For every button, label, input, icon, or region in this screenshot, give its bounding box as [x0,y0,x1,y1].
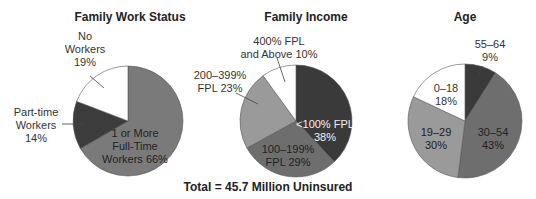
label-200-399-fpl: 200–399% FPL 23% [190,69,250,95]
label-line: Workers 66% [100,153,170,166]
label-line: Part-time [10,106,62,119]
label-line: 18% [426,95,466,108]
chart-title-work-status: Family Work Status [60,10,200,24]
label-line: 9% [470,51,510,64]
label-line: 43% [473,139,513,152]
label-line: Workers [60,43,110,56]
label-line: 55–64 [470,38,510,51]
label-age-30-54: 30–54 43% [473,126,513,152]
label-line: 19% [60,56,110,69]
label-line: No [60,30,110,43]
label-line: 19–29 [416,126,456,139]
total-uninsured-caption: Total = 45.7 Million Uninsured [0,180,536,194]
label-100-199-fpl: 100–199% FPL 29% [258,143,318,169]
label-line: 400% FPL [234,35,324,48]
label-line: and Above 10% [234,48,324,61]
label-full-time-workers: 1 or More Full-Time Workers 66% [100,127,170,166]
label-line: 1 or More [100,127,170,140]
label-line: 30% [416,139,456,152]
label-line: <100% FPL [294,118,356,131]
label-line: Full-Time [100,140,170,153]
label-no-workers: No Workers 19% [60,30,110,69]
label-400-fpl: 400% FPL and Above 10% [234,35,324,61]
label-line: FPL 23% [190,82,250,95]
chart-title-age: Age [440,10,490,24]
label-line: FPL 29% [258,156,318,169]
chart-title-family-income: Family Income [246,10,366,24]
label-below-100-fpl: <100% FPL 38% [294,118,356,144]
label-line: 30–54 [473,126,513,139]
label-age-55-64: 55–64 9% [470,38,510,64]
label-age-19-29: 19–29 30% [416,126,456,152]
label-line: Workers [10,119,62,132]
label-line: 0–18 [426,82,466,95]
label-age-0-18: 0–18 18% [426,82,466,108]
label-line: 14% [10,132,62,145]
label-line: 100–199% [258,143,318,156]
label-part-time-workers: Part-time Workers 14% [10,106,62,145]
label-line: 200–399% [190,69,250,82]
